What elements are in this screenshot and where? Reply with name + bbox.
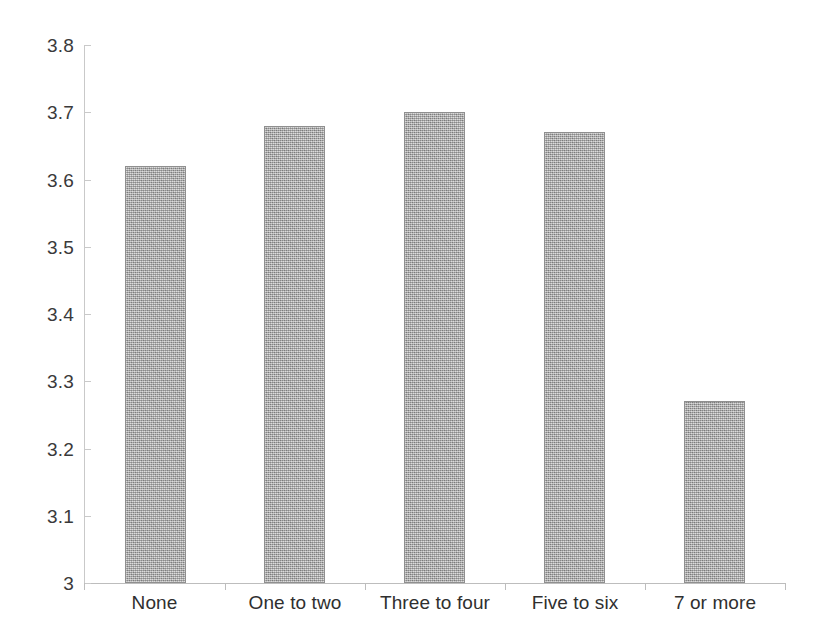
y-axis-label-text: 3.6 bbox=[30, 171, 74, 190]
y-axis-tick bbox=[84, 449, 91, 450]
x-axis-category-label: Five to six bbox=[505, 592, 645, 614]
bar-one-to-two bbox=[264, 126, 325, 583]
x-axis-category-label: 7 or more bbox=[645, 592, 785, 614]
y-axis-label-3-1: 3.1 bbox=[30, 507, 74, 526]
bar-chart: 3.8 3.7 3.6 3.5 3.4 3.3 3.2 3.1 3 None O… bbox=[0, 0, 831, 631]
bar-none bbox=[125, 166, 186, 583]
bar-7-or-more bbox=[684, 401, 745, 583]
y-axis-tick bbox=[84, 583, 91, 584]
y-axis-tick bbox=[84, 112, 91, 113]
x-axis-line bbox=[84, 583, 785, 584]
y-axis-label-text: 3 bbox=[30, 574, 74, 593]
y-axis-label-3-3: 3.3 bbox=[30, 372, 74, 391]
x-axis-tick bbox=[225, 583, 226, 590]
y-axis-label-3-6: 3.6 bbox=[30, 171, 74, 190]
x-axis-tick bbox=[84, 583, 85, 590]
y-axis-tick bbox=[84, 381, 91, 382]
y-axis-label-text: 3.2 bbox=[30, 440, 74, 459]
y-axis-label-text: 3.1 bbox=[30, 507, 74, 526]
x-axis-category-label: One to two bbox=[225, 592, 365, 614]
y-axis-tick bbox=[84, 314, 91, 315]
y-axis-label-text: 3.5 bbox=[30, 238, 74, 257]
x-axis-tick bbox=[785, 583, 786, 590]
y-axis-label-text: 3.7 bbox=[30, 103, 74, 122]
y-axis-tick bbox=[84, 247, 91, 248]
y-axis-tick bbox=[84, 45, 91, 46]
y-axis-label-3-7: 3.7 bbox=[30, 103, 74, 122]
x-axis-tick bbox=[645, 583, 646, 590]
y-axis-label-text: 3.4 bbox=[30, 305, 74, 324]
y-axis-label-3-8: 3.8 bbox=[30, 36, 74, 55]
y-axis-label-3-5: 3.5 bbox=[30, 238, 74, 257]
y-axis-tick bbox=[84, 516, 91, 517]
bar-five-to-six bbox=[544, 132, 605, 583]
x-axis-category-label: Three to four bbox=[365, 592, 505, 614]
y-axis-label-text: 3.8 bbox=[30, 36, 74, 55]
y-axis-label-3-4: 3.4 bbox=[30, 305, 74, 324]
y-axis-label-text: 3.3 bbox=[30, 372, 74, 391]
x-axis-category-label: None bbox=[84, 592, 225, 614]
bar-three-to-four bbox=[404, 112, 465, 583]
y-axis-label-3-2: 3.2 bbox=[30, 440, 74, 459]
x-axis-tick bbox=[365, 583, 366, 590]
y-axis-tick bbox=[84, 180, 91, 181]
y-axis-label-3: 3 bbox=[30, 574, 74, 593]
x-axis-tick bbox=[505, 583, 506, 590]
